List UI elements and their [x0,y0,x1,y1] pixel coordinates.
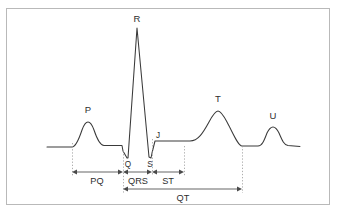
interval-arrow-qt [123,187,242,192]
wave-label-t: T [215,93,221,104]
interval-label-qt: QT [177,193,190,203]
interval-label-pq: PQ [90,176,103,186]
ecg-waveform-canvas: P Q R S J T U PQ QRS ST QT [0,0,342,217]
wave-label-r: R [134,13,141,24]
wave-label-p: P [85,104,91,115]
wave-label-q: Q [125,160,131,169]
interval-label-qrs: QRS [128,176,148,186]
wave-label-u: U [270,110,277,121]
interval-label-st: ST [162,176,174,186]
interval-arrow-qrs [123,170,152,175]
interval-arrow-pq [72,170,123,175]
ecg-diagram-figure: P Q R S J T U PQ QRS ST QT [0,0,342,217]
wave-label-j: J [156,131,160,140]
interval-arrow-st [152,170,184,175]
wave-label-s: S [147,160,153,169]
ecg-trace-path [47,28,300,158]
